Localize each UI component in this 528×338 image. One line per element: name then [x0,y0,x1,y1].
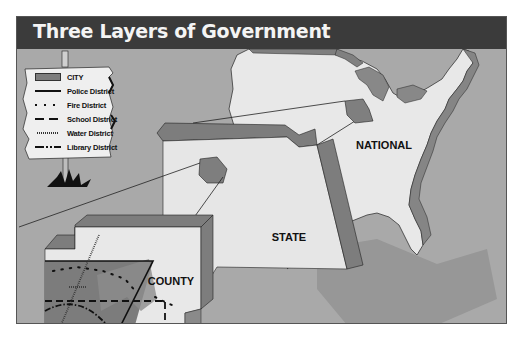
diagram-frame: Three Layers of Government NATIONAL [16,16,507,324]
national-label: NATIONAL [356,139,412,151]
dash-dot-line-icon [35,143,61,151]
hatched-line-icon [35,129,61,137]
legend-item-school: School District [35,113,117,125]
legend-item-city: CITY [35,71,83,83]
dashed-line-icon [35,115,61,123]
legend-item-water: Water District [35,127,113,139]
solid-line-icon [35,87,61,95]
legend-item-library: Library District [35,141,117,153]
map-area: NATIONAL STATE [17,49,506,324]
state-label: STATE [272,231,306,243]
diagram-title: Three Layers of Government [33,20,330,42]
county-label: COUNTY [148,275,195,287]
legend: CITY Police District Fire District Schoo… [29,67,109,159]
dotted-line-icon [35,101,61,109]
title-bar: Three Layers of Government [17,17,506,49]
county-block [45,215,213,324]
legend-item-police: Police District [35,85,114,97]
legend-item-fire: Fire District [35,99,106,111]
city-swatch-icon [35,73,61,81]
